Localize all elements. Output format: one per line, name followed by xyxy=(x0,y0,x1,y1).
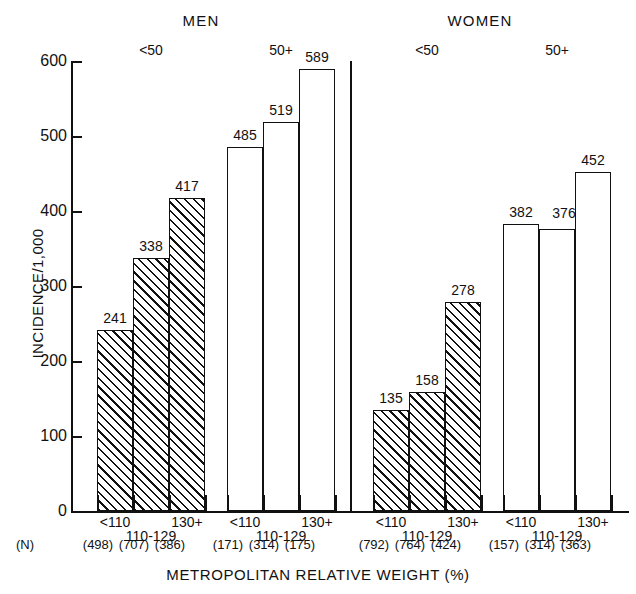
x-tick-g3-d xyxy=(481,495,483,512)
x-tick-g2-a xyxy=(227,495,229,512)
bar-women-50plus-130plus xyxy=(575,172,611,511)
panel-title-men: MEN xyxy=(91,12,311,29)
x-tick-g4-c xyxy=(575,495,577,512)
n-value-g3-110-129: (764) xyxy=(391,537,429,552)
y-tick-label-600: 600 xyxy=(29,53,67,69)
n-value-g2-130plus: (175) xyxy=(281,537,319,552)
y-tick-0 xyxy=(73,511,82,513)
panel-title-women: WOMEN xyxy=(370,12,590,29)
bar-men-50plus-130plus xyxy=(299,69,335,511)
bar-value-women-under50-130plus: 278 xyxy=(427,282,499,298)
n-value-g3-lt110: (792) xyxy=(355,537,393,552)
bar-men-under50-130plus xyxy=(169,198,205,511)
y-tick-600 xyxy=(73,61,82,63)
x-tick-g1-b xyxy=(133,495,135,512)
n-value-g2-110-129: (314) xyxy=(245,537,283,552)
n-value-g4-110-129: (314) xyxy=(521,537,559,552)
bar-men-under50-lt110 xyxy=(97,330,133,511)
x-axis-title: METROPOLITAN RELATIVE WEIGHT (%) xyxy=(0,566,636,583)
y-axis-title: INCIDENCE/1,000 xyxy=(29,184,46,404)
n-value-g4-lt110: (157) xyxy=(485,537,523,552)
x-tick-g3-a xyxy=(373,495,375,512)
bar-women-50plus-lt110 xyxy=(503,224,539,511)
x-tick-g2-d xyxy=(335,495,337,512)
bar-women-50plus-110-129 xyxy=(539,229,575,511)
n-value-g1-lt110: (498) xyxy=(79,537,117,552)
group-title-women-under50: <50 xyxy=(377,42,477,58)
x-tick-g1-d xyxy=(205,495,207,512)
panel-divider-line xyxy=(350,61,352,513)
x-tick-g3-c xyxy=(445,495,447,512)
bar-value-women-50plus-130plus: 452 xyxy=(557,152,629,168)
bar-men-50plus-110-129 xyxy=(263,122,299,511)
n-value-g1-110-129: (707) xyxy=(115,537,153,552)
bar-value-men-50plus-130plus: 589 xyxy=(281,49,353,65)
n-value-g1-130plus: (386) xyxy=(151,537,189,552)
y-tick-label-0: 0 xyxy=(29,503,67,519)
x-tick-g3-b xyxy=(409,495,411,512)
n-value-g3-130plus: (424) xyxy=(427,537,465,552)
bar-men-50plus-lt110 xyxy=(227,147,263,511)
y-tick-400 xyxy=(73,211,82,213)
x-tick-g1-c xyxy=(169,495,171,512)
group-title-men-under50: <50 xyxy=(101,42,201,58)
bar-women-under50-lt110 xyxy=(373,410,409,511)
x-tick-g4-d xyxy=(611,495,613,512)
x-tick-g1-a xyxy=(97,495,99,512)
x-tick-g4-b xyxy=(539,495,541,512)
bar-chart-figure: MEN WOMEN <50 50+ <50 50+ 0 100 200 300 … xyxy=(0,0,636,594)
n-value-g2-lt110: (171) xyxy=(209,537,247,552)
n-value-g4-130plus: (363) xyxy=(557,537,595,552)
y-tick-label-500: 500 xyxy=(29,128,67,144)
y-tick-500 xyxy=(73,136,82,138)
bar-men-under50-110-129 xyxy=(133,258,169,511)
x-tick-g4-a xyxy=(503,495,505,512)
y-tick-label-100: 100 xyxy=(29,428,67,444)
y-tick-200 xyxy=(73,361,82,363)
bar-value-men-under50-130plus: 417 xyxy=(151,178,223,194)
y-tick-300 xyxy=(73,286,82,288)
x-tick-g2-b xyxy=(263,495,265,512)
group-title-women-50plus: 50+ xyxy=(507,42,607,58)
n-row-tag: (N) xyxy=(16,537,34,552)
y-tick-100 xyxy=(73,436,82,438)
bar-women-under50-130plus xyxy=(445,302,481,511)
bar-women-under50-110-129 xyxy=(409,392,445,511)
x-tick-g2-c xyxy=(299,495,301,512)
